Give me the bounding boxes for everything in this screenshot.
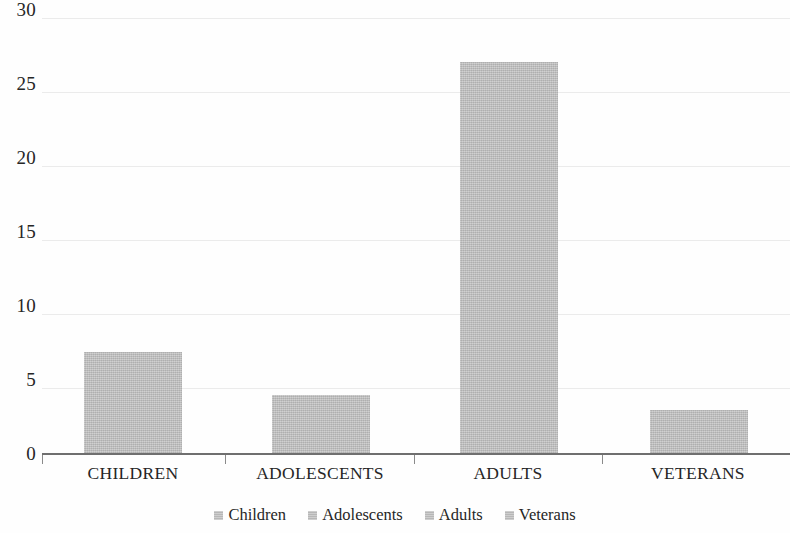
legend-item-children: Children [214, 506, 286, 524]
y-tick-label-25: 25 [0, 74, 36, 93]
y-tick-label-0: 0 [0, 444, 36, 463]
y-tick-label-30: 30 [0, 0, 36, 19]
chart-legend: Children Adolescents Adults Veterans [0, 506, 790, 524]
legend-label-adults: Adults [439, 506, 483, 524]
gridline-20 [42, 166, 790, 167]
y-tick-label-10: 10 [0, 296, 36, 315]
x-tick-label-children: CHILDREN [33, 462, 233, 484]
gridline-30 [42, 18, 790, 19]
gridline-25 [42, 92, 790, 93]
legend-item-adults: Adults [425, 506, 483, 524]
legend-swatch-icon [308, 511, 317, 520]
legend-label-adolescents: Adolescents [322, 506, 403, 524]
legend-swatch-icon [425, 511, 434, 520]
legend-swatch-icon [505, 511, 514, 520]
legend-item-adolescents: Adolescents [308, 506, 403, 524]
bar-adults [460, 62, 558, 455]
bar-adolescents [272, 395, 370, 454]
gridline-10 [42, 314, 790, 315]
y-tick-label-5: 5 [0, 370, 36, 389]
x-tick-label-adolescents: ADOLESCENTS [220, 462, 420, 484]
x-tick-label-adults: ADULTS [408, 462, 608, 484]
bar-veterans [650, 410, 748, 455]
bar-chart: 30 25 20 15 10 5 0 CHILDREN ADOLESCENTS … [0, 0, 790, 533]
y-tick-label-15: 15 [0, 222, 36, 241]
x-axis-line [42, 453, 790, 455]
x-tick-label-veterans: VETERANS [598, 462, 790, 484]
legend-swatch-icon [214, 511, 223, 520]
y-tick-label-20: 20 [0, 148, 36, 167]
plot-area [42, 8, 790, 454]
legend-item-veterans: Veterans [505, 506, 576, 524]
legend-label-veterans: Veterans [519, 506, 576, 524]
bar-children [84, 352, 182, 455]
legend-label-children: Children [228, 506, 286, 524]
gridline-15 [42, 240, 790, 241]
